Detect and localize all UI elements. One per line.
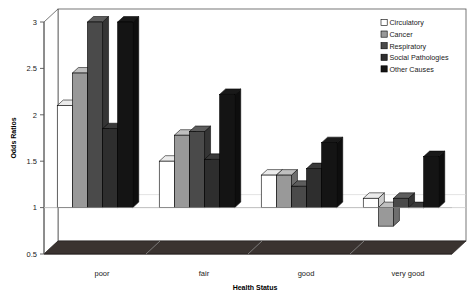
bar [322,137,343,207]
bar-front [189,132,204,208]
bar [118,17,139,208]
bar-side [337,137,343,207]
bar-front [424,157,439,208]
x-category-label: good [298,269,315,278]
bar-front [378,208,393,227]
bar-side [133,17,139,208]
y-tick-label: 2 [33,111,37,120]
legend-label: Circulatory [389,18,424,27]
bar [220,89,241,208]
y-tick-label: 0.5 [27,250,37,259]
y-tick-label: 3 [33,18,37,27]
y-axis-title: Odds Ratios [10,117,17,158]
legend-swatch [381,66,387,72]
legend-swatch [381,54,387,60]
x-category-label: fair [199,269,210,278]
bar-side [235,89,241,208]
bar-front [291,186,306,207]
legend-label: Cancer [389,30,413,39]
bar-front [103,129,118,208]
bar-front [72,73,87,208]
legend-label: Social Pathologies [389,53,449,62]
bar-front [261,175,276,207]
legend-swatch [381,31,387,37]
bar-front [363,198,378,207]
y-tick-label: 2.5 [27,64,37,73]
bar-front [118,22,133,208]
bar [424,151,445,208]
legend-label: Other Causes [389,65,434,74]
x-category-label: poor [94,269,110,278]
legend-swatch [381,43,387,49]
bar-front [174,135,189,207]
bar-front [205,159,220,207]
chart-figure: 0.511.522.53Odds Ratiospoorfairgoodvery … [0,0,476,302]
bar-front [393,198,408,207]
chart-canvas: 0.511.522.53Odds Ratiospoorfairgoodvery … [0,0,476,302]
y-tick-label: 1.5 [27,157,37,166]
bar-front [307,169,322,208]
bar-front [57,106,72,208]
legend-swatch [381,19,387,25]
bar-side [439,151,445,208]
x-category-label: very good [392,269,425,278]
bar-front [87,22,102,208]
x-axis-title: Health Status [233,284,278,291]
legend-label: Respiratory [389,42,426,51]
bar-front [159,161,174,207]
bar-front [322,143,337,208]
bar-front [276,175,291,207]
left-wall [44,9,58,254]
bar-front [220,94,235,207]
y-tick-label: 1 [33,203,37,212]
